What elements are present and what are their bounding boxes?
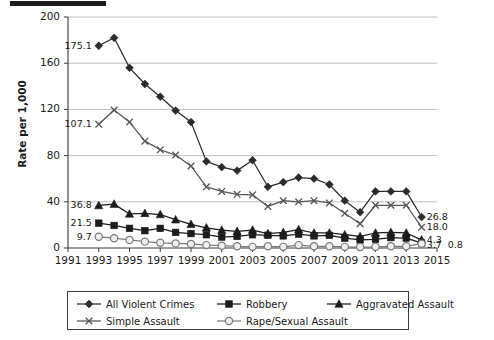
gridlines — [68, 17, 437, 248]
data-point-label: 3.7 — [427, 239, 442, 250]
data-point-label: 21.5 — [71, 217, 92, 228]
legend-label: All Violent Crimes — [106, 299, 194, 310]
legend-label: Aggravated Assault — [356, 299, 454, 310]
x-tick-label: 2015 — [417, 254, 457, 266]
data-point-label: 18.0 — [427, 221, 448, 232]
legend-item-robbery[interactable]: Robbery — [216, 298, 288, 310]
series-all-violent-crimes — [95, 34, 426, 221]
data-point-label: 9.7 — [77, 231, 92, 242]
legend-label: Simple Assault — [106, 316, 180, 327]
y-tick-label: 120 — [26, 102, 60, 114]
y-tick-label: 0 — [26, 241, 60, 253]
y-tick-label: 80 — [26, 149, 60, 161]
data-point-label: 36.8 — [71, 199, 92, 210]
legend-item-simple-assault[interactable]: Simple Assault — [76, 315, 180, 327]
x-tick-marks — [64, 17, 437, 252]
series-layer — [95, 34, 426, 251]
cross-marker-icon — [76, 315, 102, 327]
circle-open-marker-icon — [216, 315, 242, 327]
legend-item-aggravated-assault[interactable]: Aggravated Assault — [326, 298, 454, 310]
plot-area — [0, 0, 494, 340]
y-tick-label: 160 — [26, 56, 60, 68]
data-point-label: 0.8 — [448, 239, 463, 250]
data-point-label: 175.1 — [65, 40, 92, 51]
square-marker-icon — [216, 298, 242, 310]
y-tick-label: 40 — [26, 195, 60, 207]
legend-label: Robbery — [246, 299, 288, 310]
legend-item-rape-sexual-assault[interactable]: Rape/Sexual Assault — [216, 315, 348, 327]
legend-item-all-violent-crimes[interactable]: All Violent Crimes — [76, 298, 194, 310]
crime-rate-line-chart: Rate per 1,000 04080120160200 1991199319… — [0, 0, 494, 340]
diamond-marker-icon — [76, 298, 102, 310]
legend: All Violent CrimesRobberyAggravated Assa… — [67, 291, 409, 330]
legend-label: Rape/Sexual Assault — [246, 316, 348, 327]
triangle-marker-icon — [326, 298, 352, 310]
y-tick-label: 200 — [26, 10, 60, 22]
data-point-label: 107.1 — [65, 118, 92, 129]
